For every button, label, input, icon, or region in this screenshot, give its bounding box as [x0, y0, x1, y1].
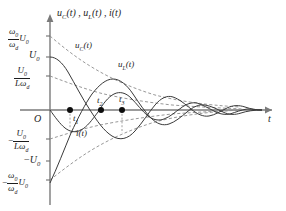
fraction-denominator: ωd — [7, 184, 18, 196]
y-axis-caption-ul: uL(t) — [83, 7, 101, 18]
x-axis-caption: t — [268, 114, 271, 124]
fraction-neg-u0-lwd: U0 Lωd — [13, 129, 29, 153]
plot-canvas — [0, 0, 286, 211]
y-label-u0: U0 — [29, 50, 40, 63]
time-label-t2: t2 — [97, 96, 102, 108]
curve-label-ul: uL(t) — [118, 60, 134, 72]
fraction-neg-omega-ratio: ω0 ωd — [7, 171, 18, 195]
damped-oscillation-figure: uC(t) , uL(t) , i(t) t O ω0 ωd U0 U0 U0 … — [0, 0, 286, 211]
envelope-lower-omega — [50, 110, 240, 180]
fraction-denominator: Lωd — [14, 79, 30, 91]
y-label-u0-over-lwd: U0 Lωd — [14, 66, 30, 90]
fraction-denominator: ωd — [8, 40, 19, 52]
y-axis-caption-sep2: , — [101, 7, 109, 18]
time-label-t1: t1 — [73, 114, 78, 126]
y-axis-caption-uc: uC(t) — [57, 7, 76, 18]
y-axis-caption: uC(t) , uL(t) , i(t) — [57, 8, 121, 21]
fraction-u0-lwd: U0 Lωd — [14, 66, 30, 90]
y-label-omega-ratio-u0: ω0 ωd U0 — [8, 27, 29, 51]
origin-label: O — [34, 114, 41, 124]
origin-label-text: O — [34, 113, 41, 124]
time-label-t3: t3 — [119, 95, 124, 107]
dot-t3 — [119, 107, 125, 113]
y-label-neg-omega-ratio-u0: − ω0 ωd U0 — [2, 171, 28, 195]
curve-label-uc: uC(t) — [75, 41, 92, 53]
fraction-omega-ratio: ω0 ωd — [8, 27, 19, 51]
y-axis-arrowhead — [47, 14, 54, 22]
y-axis-caption-i: i(t) — [109, 7, 121, 18]
y-label-neg-u0: −U0 — [24, 155, 40, 168]
x-axis-caption-text: t — [268, 113, 271, 124]
dot-t2 — [98, 107, 104, 113]
y-label-neg-u0-over-lwd: − U0 Lωd — [8, 129, 29, 153]
fraction-tail: U0 — [19, 33, 28, 43]
fraction-denominator: Lωd — [13, 142, 29, 154]
fraction-tail: U0 — [18, 177, 27, 187]
curve-uc — [50, 57, 262, 139]
curve-label-i: i(t) — [76, 129, 87, 138]
